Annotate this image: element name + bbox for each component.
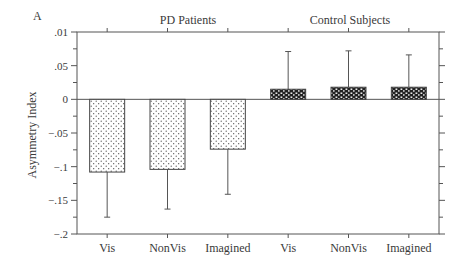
y-tick-labels: .01.050−.05−.1−.15−.2 (48, 26, 68, 240)
x-tick-label: Imagined (205, 241, 250, 255)
group-label-pd: PD Patients (160, 13, 217, 27)
bar-chart: A PD Patients Control Subjects Asymmetry… (0, 0, 467, 269)
bars (90, 51, 427, 217)
y-tick-label: 0 (63, 93, 69, 105)
y-axis-label: Asymmetry Index (25, 92, 39, 179)
x-tick-label: NonVis (149, 241, 186, 255)
group-label-control: Control Subjects (310, 13, 391, 27)
bar-0 (90, 99, 125, 217)
y-tick-label: −.05 (48, 127, 68, 139)
y-tick-label: −.1 (54, 161, 68, 173)
x-tick-label: NonVis (330, 241, 367, 255)
bar-3 (271, 52, 306, 100)
bar-4 (331, 51, 366, 99)
x-tick-label: Vis (280, 241, 296, 255)
panel-label: A (33, 9, 42, 23)
bar-2 (210, 99, 245, 194)
y-tick-label: .01 (54, 26, 68, 38)
y-tick-label: −.15 (48, 194, 68, 206)
x-tick-label: Imagined (386, 241, 431, 255)
y-tick-label: .05 (54, 60, 68, 72)
bar-5 (391, 55, 426, 99)
x-tick-label: Vis (99, 241, 115, 255)
bar-1 (150, 99, 185, 209)
x-tick-labels: VisNonVisImaginedVisNonVisImagined (99, 241, 431, 255)
y-tick-label: −.2 (54, 228, 68, 240)
axes (71, 28, 445, 238)
